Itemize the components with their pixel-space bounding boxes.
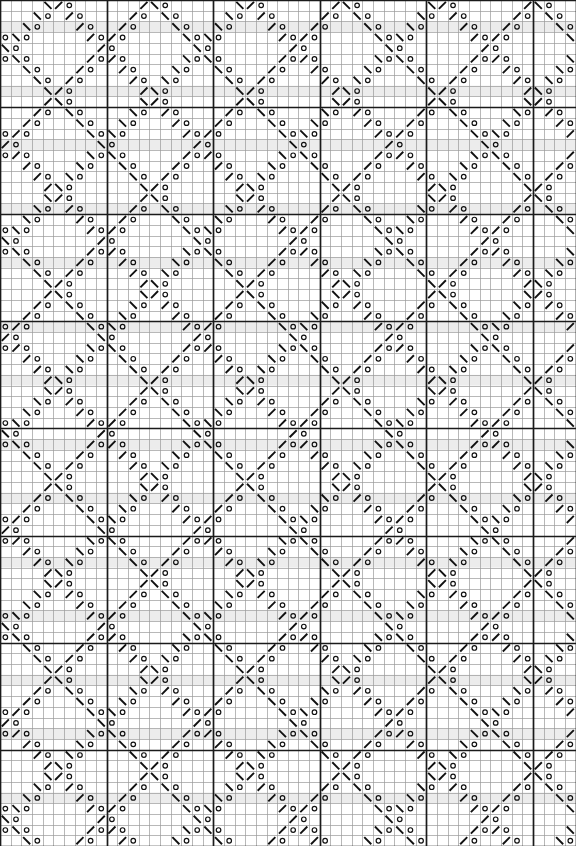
lace-knitting-chart <box>0 0 576 846</box>
chart-grid-canvas <box>0 0 576 846</box>
